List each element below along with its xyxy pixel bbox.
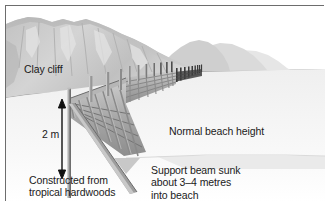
label-construction-material: Constructed from tropical hardwoods — [29, 174, 115, 199]
label-height-measure: 2 m — [42, 128, 59, 140]
label-clay-cliff: Clay cliff — [24, 63, 62, 75]
diagram-figure: Clay cliff 2 m Normal beach height Const… — [0, 0, 331, 209]
label-support-beam: Support beam sunk about 3–4 metres into … — [151, 164, 240, 201]
figure-frame: Clay cliff 2 m Normal beach height Const… — [5, 5, 324, 201]
label-normal-beach-height: Normal beach height — [169, 125, 264, 137]
diagram-canvas: Clay cliff 2 m Normal beach height Const… — [6, 6, 325, 202]
